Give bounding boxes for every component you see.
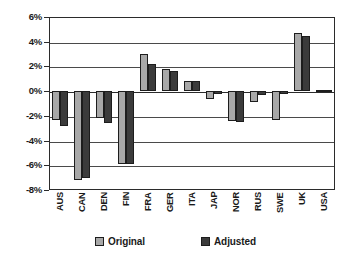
- bar-chart: 6%4%2%0%-2%-4%-6%-8% AUSCANDENFINFRAGERI…: [0, 0, 351, 261]
- chart-legend: OriginalAdjusted: [0, 236, 351, 247]
- bar-usa-original: [316, 90, 324, 92]
- x-tick-label-nor: NOR: [231, 192, 241, 230]
- bar-swe-adjusted: [280, 91, 288, 93]
- bar-den-adjusted: [104, 91, 112, 123]
- bar-jap-original: [206, 91, 214, 98]
- legend-swatch-icon: [201, 237, 210, 246]
- x-tick-label-fin: FIN: [121, 192, 131, 230]
- x-tick-label-aus: AUS: [55, 192, 65, 230]
- y-tick-mark: [44, 190, 49, 191]
- bar-rus-adjusted: [258, 91, 266, 95]
- bar-uk-adjusted: [302, 36, 310, 92]
- legend-label: Adjusted: [214, 236, 256, 247]
- legend-label: Original: [108, 236, 145, 247]
- x-tick-label-swe: SWE: [275, 192, 285, 230]
- y-tick-label: -6%: [0, 159, 42, 170]
- x-tick-label-usa: USA: [319, 192, 329, 230]
- x-tick-label-ger: GER: [165, 192, 175, 230]
- x-axis-labels: AUSCANDENFINFRAGERITAJAPNORRUSSWEUKUSA: [49, 192, 335, 232]
- x-tick-label-ita: ITA: [187, 192, 197, 230]
- x-tick-label-fra: FRA: [143, 192, 153, 230]
- y-tick-label: 4%: [0, 36, 42, 47]
- y-tick-label: -2%: [0, 110, 42, 121]
- x-tick-label-jap: JAP: [209, 192, 219, 230]
- legend-item-original[interactable]: Original: [95, 236, 145, 247]
- y-tick-label: 6%: [0, 11, 42, 22]
- bar-usa-adjusted: [324, 90, 332, 92]
- bar-aus-adjusted: [60, 91, 68, 126]
- x-tick-label-den: DEN: [99, 192, 109, 230]
- y-tick-label: -8%: [0, 184, 42, 195]
- bar-fin-original: [118, 91, 126, 164]
- bar-can-original: [74, 91, 82, 180]
- bar-fin-adjusted: [126, 91, 134, 164]
- bar-series-layer: [49, 17, 335, 190]
- bar-nor-adjusted: [236, 91, 244, 122]
- bar-ita-adjusted: [192, 81, 200, 91]
- bar-nor-original: [228, 91, 236, 121]
- bar-den-original: [96, 91, 104, 118]
- bar-rus-original: [250, 91, 258, 102]
- y-tick-label: 2%: [0, 60, 42, 71]
- bar-aus-original: [52, 91, 60, 119]
- x-tick-label-uk: UK: [297, 192, 307, 230]
- bar-ger-original: [162, 69, 170, 91]
- legend-swatch-icon: [95, 237, 104, 246]
- x-tick-label-rus: RUS: [253, 192, 263, 230]
- bar-fra-original: [140, 54, 148, 91]
- y-tick-label: 0%: [0, 85, 42, 96]
- legend-item-adjusted[interactable]: Adjusted: [201, 236, 256, 247]
- bar-can-adjusted: [82, 91, 90, 178]
- x-tick-label-can: CAN: [77, 192, 87, 230]
- y-tick-label: -4%: [0, 135, 42, 146]
- bar-swe-original: [272, 91, 280, 119]
- bar-uk-original: [294, 33, 302, 91]
- bar-ger-adjusted: [170, 71, 178, 91]
- bar-ita-original: [184, 81, 192, 91]
- bar-fra-adjusted: [148, 64, 156, 91]
- bar-jap-adjusted: [214, 91, 222, 93]
